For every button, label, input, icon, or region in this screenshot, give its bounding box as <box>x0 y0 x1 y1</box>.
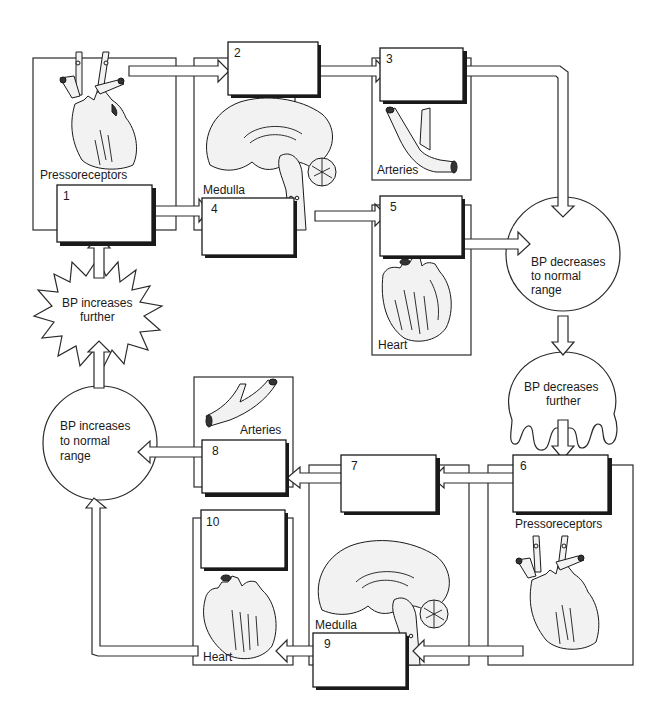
state-bp-increases-normal-line3: range <box>60 449 91 463</box>
box-8: 8 <box>202 440 289 497</box>
box-2: 2 <box>228 42 321 98</box>
state-bp-decreases-further-line1: BP decreases <box>524 380 599 394</box>
box-2-number: 2 <box>234 46 241 60</box>
box-4: 4 <box>202 198 297 258</box>
box-1: 1 <box>57 185 156 246</box>
arrow-4-to-5 <box>315 204 386 226</box>
panel-label-pressoreceptors-bottom: Pressoreceptors <box>515 517 602 531</box>
box-3: 3 <box>380 48 467 104</box>
box-9: 9 <box>313 633 409 690</box>
state-bp-increases-further-line1: BP increases <box>62 296 132 310</box>
arrow-decrease-normal-to-further <box>552 316 574 355</box>
panel-label-medulla-top: Medulla <box>203 183 245 197</box>
box-7: 7 <box>341 455 440 515</box>
box-10-number: 10 <box>206 515 220 529</box>
box-10: 10 <box>201 510 288 571</box>
state-bp-decreases-normal-line1: BP decreases <box>531 255 606 269</box>
box-6-number: 6 <box>520 459 527 473</box>
panel-label-arteries-top: Arteries <box>377 163 418 177</box>
box-7-number: 7 <box>351 459 358 473</box>
state-bp-increases-further-line2: further <box>80 310 115 324</box>
panel-label-heart-bottom: Heart <box>203 650 233 664</box>
box-9-number: 9 <box>324 637 331 651</box>
box-5: 5 <box>380 196 465 259</box>
panel-label-heart-top: Heart <box>378 338 408 352</box>
panel-label-pressoreceptors-top: Pressoreceptors <box>40 168 127 182</box>
state-bp-decreases-normal-line2: to normal <box>531 269 581 283</box>
arrow-2-to-3 <box>316 60 387 82</box>
panel-label-medulla-bottom: Medulla <box>315 618 357 632</box>
arrow-3-to-decrease-normal <box>460 66 574 217</box>
box-3-number: 3 <box>386 52 393 66</box>
bp-feedback-diagram: Pressoreceptors Medulla Arteries Heart A… <box>0 0 665 727</box>
box-5-number: 5 <box>390 200 397 214</box>
arrow-10-to-increase-normal <box>86 498 198 656</box>
box-4-number: 4 <box>211 202 218 216</box>
state-bp-decreases-further-line2: further <box>546 394 581 408</box>
arrow-increase-normal-to-further <box>88 341 110 388</box>
state-bp-increases-normal-line2: to normal <box>60 434 110 448</box>
panel-label-arteries-bottom: Arteries <box>240 423 281 437</box>
box-1-number: 1 <box>63 189 70 203</box>
box-6: 6 <box>513 455 612 515</box>
box-8-number: 8 <box>212 444 219 458</box>
state-bp-increases-normal-line1: BP increases <box>60 419 130 433</box>
state-bp-decreases-normal-line3: range <box>531 283 562 297</box>
